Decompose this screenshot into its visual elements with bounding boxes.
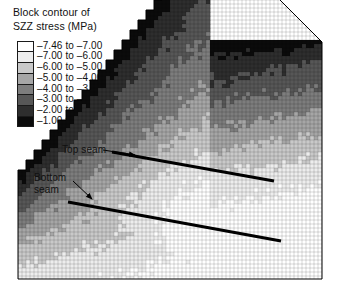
annotation-top-seam: Top seam xyxy=(62,144,106,156)
annotation-bottom-seam-line-2: seam xyxy=(34,184,66,196)
contour-plot xyxy=(0,0,342,297)
mesh-cells xyxy=(18,0,322,280)
annotation-bottom-seam-line-1: Bottom xyxy=(34,172,66,184)
annotation-bottom-seam: Bottom seam xyxy=(34,172,66,196)
figure-container: Block contour of SZZ stress (MPa) –7.46 … xyxy=(0,0,342,297)
